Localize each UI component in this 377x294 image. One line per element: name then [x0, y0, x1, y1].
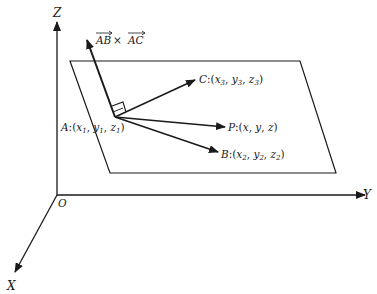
vectors [87, 40, 225, 152]
right-angle-marker [112, 102, 126, 112]
vector-ac [115, 80, 195, 117]
normal-vector-label: AB × AC [95, 31, 145, 46]
y-axis-label: Y [363, 188, 372, 202]
x-axis-label: X [6, 279, 16, 293]
normal-op: × [113, 34, 122, 46]
z-axis-label: Z [52, 6, 62, 20]
normal-vector [87, 40, 115, 117]
point-p-label: P:(x, y, z) [227, 121, 278, 133]
plane-diagram: Z Y X O AB × AC C:(x3, y3, z3) P:(x, y, … [0, 0, 377, 294]
point-c-label: C:(x3, y3, z3) [199, 73, 263, 87]
point-a-label: A:(x1, y1, z1) [60, 121, 125, 135]
normal-vec2: AC [127, 34, 144, 46]
coordinate-axes [15, 22, 365, 272]
x-axis [15, 195, 57, 272]
point-b-label: B:(x2, y2, z2) [220, 148, 285, 162]
right-angle-marker-2 [113, 108, 123, 112]
diagram-canvas: Z Y X O AB × AC C:(x3, y3, z3) P:(x, y, … [0, 0, 377, 294]
normal-vec1: AB [95, 34, 112, 46]
origin-label: O [58, 197, 67, 209]
